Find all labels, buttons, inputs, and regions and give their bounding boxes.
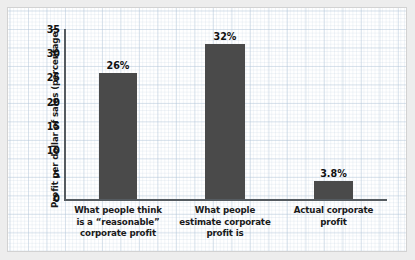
category-label-2-line-1: What people	[173, 205, 277, 217]
category-label-2: What people estimate corporate profit is	[173, 205, 277, 240]
category-label-1-line-1: What people think	[62, 205, 174, 217]
bar-actual-corporate-profit	[314, 181, 353, 199]
bar-label-2: 32%	[205, 31, 245, 42]
category-label-1-line-2: is a “reasonable”	[62, 217, 174, 229]
bar-label-3: 3.8%	[309, 168, 358, 179]
bar-what-people-think-reasonable	[99, 73, 137, 199]
bar-what-people-estimate	[205, 44, 245, 199]
category-label-1-line-3: corporate profit	[62, 228, 174, 240]
category-label-3: Actual corporate profit	[285, 205, 382, 228]
category-label-3-line-1: Actual corporate	[285, 205, 382, 217]
category-label-2-line-2: estimate corporate	[173, 217, 277, 229]
plot-area: Profit per dollar of sales (percentage) …	[0, 0, 415, 260]
category-label-2-line-3: profit is	[173, 228, 277, 240]
chart-page: Profit per dollar of sales (percentage) …	[0, 0, 415, 260]
x-axis-line	[64, 199, 387, 201]
category-label-3-line-2: profit	[285, 217, 382, 229]
bar-label-1: 26%	[99, 60, 137, 71]
category-label-1: What people think is a “reasonable” corp…	[62, 205, 174, 240]
